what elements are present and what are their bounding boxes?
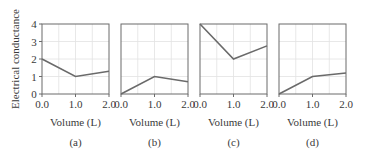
y-axis-label: Electrical conductance <box>9 9 21 109</box>
x-tick-label: 0.0 <box>35 98 49 110</box>
panels <box>39 24 346 97</box>
panel-caption: (b) <box>148 136 161 149</box>
conductance-figure: Electrical conductance 4 3 2 1 0 0.0 1.0… <box>0 0 365 155</box>
panel-a-labels: 0.0 1.0 2.0 Volume (L) (a) <box>35 98 116 149</box>
plot-panel-d <box>279 24 346 97</box>
x-tick-label: 1.0 <box>306 98 320 110</box>
panel-caption: (a) <box>69 136 82 149</box>
y-tick-label: 4 <box>31 18 37 30</box>
plot-panel-b <box>121 24 188 97</box>
y-tick-labels: 4 3 2 1 0 <box>31 18 37 100</box>
panel-c-labels: 0.0 1.0 2.0 Volume (L) (c) <box>193 98 274 149</box>
x-axis-label: Volume (L) <box>287 116 338 129</box>
panel-d-labels: 0.0 1.0 2.0 Volume (L) (d) <box>272 98 353 149</box>
y-tick-label: 3 <box>31 36 37 48</box>
x-axis-label: Volume (L) <box>50 116 101 129</box>
x-tick-label: 0.0 <box>114 98 128 110</box>
x-tick-label: 1.0 <box>69 98 83 110</box>
y-tick-label: 1 <box>31 71 37 83</box>
x-tick-label: 1.0 <box>148 98 162 110</box>
panel-b-labels: 0.0 1.0 2.0 Volume (L) (b) <box>114 98 195 149</box>
x-tick-label: 0.0 <box>193 98 207 110</box>
x-tick-label: 1.0 <box>227 98 241 110</box>
panel-caption: (d) <box>306 136 319 149</box>
x-axis-label: Volume (L) <box>129 116 180 129</box>
x-tick-label: 0.0 <box>272 98 286 110</box>
x-axis-label: Volume (L) <box>208 116 259 129</box>
y-tick-label: 2 <box>31 53 37 65</box>
plot-panel-a <box>39 24 109 97</box>
plot-panel-c <box>200 24 267 97</box>
x-tick-label: 2.0 <box>339 98 353 110</box>
panel-caption: (c) <box>227 136 240 149</box>
